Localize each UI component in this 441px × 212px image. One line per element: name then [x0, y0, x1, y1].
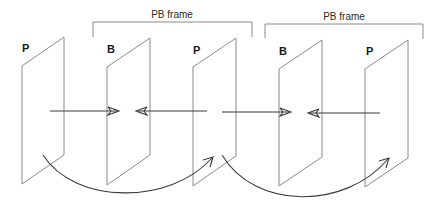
- frame-label-p-4: P: [366, 45, 373, 57]
- pb-frame-diagram: PB frame PB frame P B P B P: [0, 0, 441, 212]
- frame-label-b-3: B: [279, 45, 287, 57]
- curve-p0-to-p2: [43, 155, 213, 193]
- bracket-label-1: PB frame: [151, 9, 193, 20]
- arrow-p2-to-b1: [136, 107, 207, 115]
- arrow-p0-to-b1: [50, 107, 119, 115]
- pb-frame-group-1: PB frame: [93, 9, 252, 37]
- pb-frame-group-2: PB frame: [265, 11, 423, 39]
- frame-label-p-0: P: [22, 42, 29, 54]
- bracket-label-2: PB frame: [323, 11, 365, 22]
- bracket-2: [265, 24, 423, 39]
- arrow-p2-to-b3: [222, 108, 291, 116]
- arrow-p4-to-b3: [308, 109, 380, 117]
- curve-p2-to-p4: [222, 155, 389, 197]
- frame-label-b-1: B: [107, 43, 115, 55]
- frame-label-p-2: P: [193, 44, 200, 56]
- bracket-1: [93, 22, 252, 37]
